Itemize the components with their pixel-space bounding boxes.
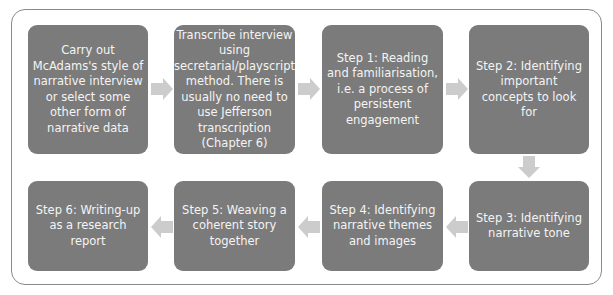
box-label: Step 4: Identifying narrative themes and… <box>326 203 439 250</box>
box-step-3: Step 3: Identifying narrative tone <box>469 181 589 271</box>
box-label: Step 1: Reading and familiarisation, i.e… <box>326 51 439 129</box>
box-step-4: Step 4: Identifying narrative themes and… <box>322 181 443 271</box>
arrow-right-icon <box>298 78 320 100</box>
box-step-5: Step 5: Weaving a coherent story togethe… <box>174 181 295 271</box>
arrow-down-icon <box>518 156 540 178</box>
box-label: Step 5: Weaving a coherent story togethe… <box>178 203 291 250</box>
box-step-1: Step 1: Reading and familiarisation, i.e… <box>322 25 443 154</box>
box-label: Step 2: Identifying important concepts t… <box>473 59 585 121</box>
arrow-right-icon <box>446 78 468 100</box>
box-step-2: Step 2: Identifying important concepts t… <box>469 25 589 154</box>
arrow-left-icon <box>446 216 468 238</box>
arrow-right-icon <box>151 78 173 100</box>
box-transcribe: Transcribe interview using secretarial/p… <box>174 25 295 154</box>
box-label: Step 3: Identifying narrative tone <box>473 211 585 242</box>
box-label: Transcribe interview using secretarial/p… <box>174 28 295 152</box>
box-step-6: Step 6: Writing-up as a research report <box>28 181 148 271</box>
box-carry-out-interview: Carry out McAdams's style of narrative i… <box>28 25 148 154</box>
arrow-left-icon <box>151 216 173 238</box>
arrow-left-icon <box>298 216 320 238</box>
box-label: Step 6: Writing-up as a research report <box>32 203 144 250</box>
box-label: Carry out McAdams's style of narrative i… <box>32 43 144 136</box>
